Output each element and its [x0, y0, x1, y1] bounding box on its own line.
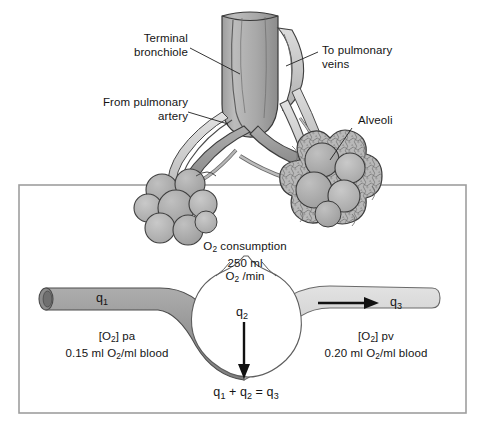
- label-terminal-bronchiole-line2: bronchiole: [28, 46, 188, 60]
- label-arterial-o2: [O2] pa 0.15 ml O2/ml blood: [42, 330, 192, 364]
- label-mass-balance-equation: q1 + q2 = q3: [176, 386, 316, 403]
- label-q3: q3: [390, 296, 402, 313]
- label-q2: q2: [236, 306, 248, 323]
- venous-bracket: [O2] pv: [296, 330, 456, 347]
- label-o2-consumption: O2 consumption 250 ml O2 /min: [182, 240, 308, 287]
- arterial-bracket: [O2] pa: [42, 330, 192, 347]
- o2-consumption-line1: O2 consumption: [182, 240, 308, 257]
- figure-canvas: Terminal bronchiole From pulmonary arter…: [0, 0, 490, 431]
- label-from-pulmonary-artery-line1: From pulmonary: [16, 96, 188, 110]
- arterial-value: 0.15 ml O2/ml blood: [42, 347, 192, 364]
- label-to-pulmonary-veins: To pulmonary veins: [322, 44, 472, 71]
- label-q1: q1: [96, 292, 108, 309]
- label-venous-o2: [O2] pv 0.20 ml O2/ml blood: [296, 330, 456, 364]
- label-from-pulmonary-artery: From pulmonary artery: [16, 96, 188, 123]
- label-to-pulmonary-veins-line1: To pulmonary: [322, 44, 472, 58]
- o2-consumption-line2: 250 ml: [182, 257, 308, 271]
- label-from-pulmonary-artery-line2: artery: [16, 110, 188, 124]
- label-alveoli-line1: Alveoli: [358, 114, 458, 128]
- label-alveoli: Alveoli: [358, 114, 458, 128]
- venous-value: 0.20 ml O2/ml blood: [296, 347, 456, 364]
- label-to-pulmonary-veins-line2: veins: [322, 58, 472, 72]
- label-terminal-bronchiole: Terminal bronchiole: [28, 32, 188, 59]
- label-terminal-bronchiole-line1: Terminal: [28, 32, 188, 46]
- o2-consumption-line3: O2 /min: [182, 270, 308, 287]
